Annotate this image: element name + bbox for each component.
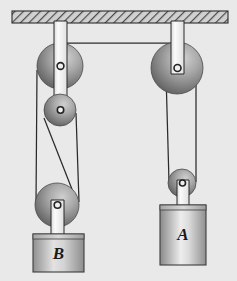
middle-left-pulley [44, 94, 76, 126]
top-right-pulley-axle [174, 65, 181, 72]
ceiling-support [12, 11, 228, 23]
block-a: A [160, 205, 206, 265]
middle-left-pulley-axle [57, 107, 63, 113]
top-left-pulley-axle [57, 63, 64, 70]
block-a-label: A [176, 225, 188, 244]
block-b: B [33, 234, 84, 272]
pulley-diagram: B A [0, 0, 237, 281]
block-a-top-face [160, 205, 206, 210]
diagram-canvas: B A [0, 0, 237, 281]
bottom-left-pulley-axle [54, 202, 61, 209]
lower-right-pulley-axle [180, 180, 186, 186]
block-b-top-face [33, 234, 84, 239]
block-b-label: B [52, 244, 64, 263]
ceiling-hatch [12, 11, 228, 23]
